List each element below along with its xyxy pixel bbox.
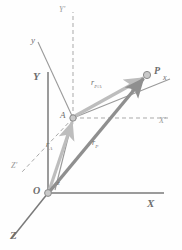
point-marker-O (45, 190, 52, 197)
axis-line-y (38, 42, 73, 118)
axis-line-x (73, 79, 170, 118)
axis-label-Z-prime: Z' (11, 162, 17, 170)
vector-r-P (50, 79, 144, 192)
diagram-canvas (0, 0, 182, 250)
vector-label-r-P-over-A-sub: P/A (94, 84, 101, 89)
axis-line-Z (12, 193, 48, 238)
axis-label-y: y (31, 36, 35, 45)
vector-label-r-P-sub: P (95, 144, 98, 149)
axis-label-z: z (57, 180, 60, 187)
vector-diagram-figure: Y X Z Y' X' Z' y x z O A P rA rP rP/A (0, 0, 182, 250)
axis-label-Y: Y (33, 71, 40, 82)
axis-label-X: X (147, 198, 154, 209)
axis-label-Y-prime: Y' (59, 6, 65, 14)
vector-label-r-A: rA (46, 141, 52, 152)
axis-label-Z: Z (10, 230, 17, 241)
point-label-O: O (33, 186, 40, 196)
point-label-A: A (60, 111, 66, 120)
vector-label-r-P-over-A: rP/A (91, 79, 102, 90)
axis-label-x: x (163, 74, 167, 82)
vector-r-P-over-A (75, 78, 144, 116)
point-marker-P (143, 71, 150, 78)
vector-label-r-A-sub: A (49, 146, 52, 151)
point-label-P: P (154, 66, 160, 76)
axis-label-X-prime: X' (159, 117, 166, 125)
vector-label-r-P: rP (92, 139, 98, 150)
point-marker-A (70, 115, 76, 121)
